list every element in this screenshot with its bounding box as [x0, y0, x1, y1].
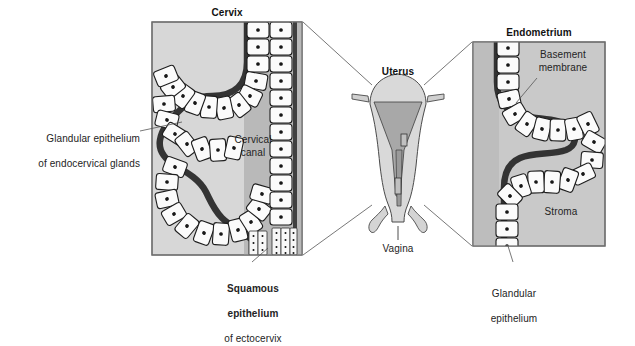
- canal-wall-basement-membrane: [293, 22, 297, 232]
- squamous-column-outer: [272, 228, 297, 255]
- callout-line-2: epithelium: [178, 308, 328, 321]
- vaginal-fornix-left: [369, 206, 388, 233]
- cervical-canal-label: Cervical canal: [222, 134, 284, 159]
- callout-line-2: epithelium: [478, 313, 550, 326]
- right-panel-title: Endometrium: [489, 27, 589, 40]
- callout-line-2: of endocervical glands: [10, 158, 140, 171]
- callout-line-1: Glandular epithelium: [10, 133, 140, 146]
- callout-line-3: of ectocervix: [178, 333, 328, 346]
- basement-membrane-label: Basement membrane: [527, 49, 599, 74]
- callout-line-1: Squamous: [178, 283, 328, 296]
- stroma-label: Stroma: [531, 206, 591, 219]
- uterine-cornu-left: [352, 94, 369, 102]
- uterus-cervix-marker: [395, 178, 401, 194]
- leader-left-bottom: [303, 205, 372, 255]
- uterine-cornu-right: [427, 94, 444, 102]
- callout-glandular-epithelium-endocervical: Glandular epithelium of endocervical gla…: [10, 120, 140, 183]
- left-panel-title: Cervix: [177, 7, 277, 20]
- callout-glandular-epithelium-endometrium: Glandular epithelium: [478, 275, 550, 338]
- vagina-label: Vagina: [368, 243, 428, 256]
- callout-line-1: Glandular: [478, 288, 550, 301]
- uterus-illustration: [352, 74, 444, 240]
- squamous-epithelium-zone: [249, 228, 297, 255]
- leader-right-top: [424, 42, 472, 85]
- vaginal-fornix-right: [408, 206, 427, 233]
- uterus-endometrium-marker: [401, 134, 407, 146]
- callout-squamous-epithelium-ectocervix: Squamous epithelium of ectocervix: [178, 270, 328, 346]
- center-panel-title: Uterus: [348, 66, 448, 79]
- leader-right-bottom: [424, 205, 472, 246]
- leader-glandular-endometrium: [508, 246, 513, 262]
